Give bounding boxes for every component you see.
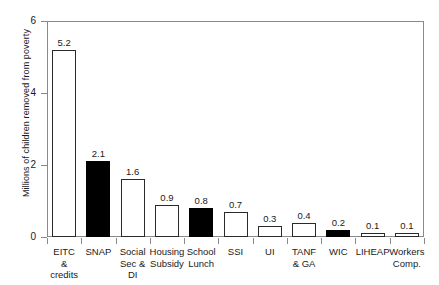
- bar-value-label: 5.2: [48, 38, 80, 48]
- x-axis-tick: [184, 238, 185, 244]
- bar-eitc-credits: [52, 50, 76, 237]
- category-label-line: Comp.: [385, 258, 429, 270]
- y-axis-tick-label: 4: [20, 88, 36, 98]
- bar-social-sec-di: [121, 179, 145, 237]
- category-label-line: credits: [42, 269, 86, 281]
- bar-school-lunch: [189, 208, 213, 237]
- x-axis-category-label: WorkersComp.: [385, 246, 429, 269]
- bar-value-label: 0.4: [288, 211, 320, 221]
- category-label-line: DI: [111, 269, 155, 281]
- x-axis-tick: [424, 238, 425, 244]
- bar-ui: [258, 226, 282, 237]
- x-axis-tick: [355, 238, 356, 244]
- x-axis-tick: [150, 238, 151, 244]
- bar-snap: [86, 161, 110, 237]
- y-axis-tick-label: 6: [20, 16, 36, 26]
- y-axis-tick: [41, 165, 47, 166]
- y-axis-tick-label: 2: [20, 160, 36, 170]
- bar-value-label: 0.3: [254, 214, 286, 224]
- bar-liheap: [361, 233, 385, 237]
- bar-ssi: [224, 212, 248, 237]
- x-axis-tick: [81, 238, 82, 244]
- category-label-line: &: [42, 258, 86, 270]
- y-axis-tick-label: 0: [20, 232, 36, 242]
- bar-value-label: 0.8: [185, 196, 217, 206]
- y-axis-tick: [41, 21, 47, 22]
- bar-value-label: 1.6: [117, 167, 149, 177]
- bar-chart: Millions of children removed from povert…: [0, 0, 439, 285]
- bar-value-label: 0.1: [391, 221, 423, 231]
- bar-value-label: 0.2: [322, 218, 354, 228]
- x-axis-tick: [390, 238, 391, 244]
- category-label-line: Lunch: [179, 258, 223, 270]
- bar-value-label: 0.7: [220, 200, 252, 210]
- x-axis-tick: [218, 238, 219, 244]
- x-axis-tick: [47, 238, 48, 244]
- y-axis-tick: [41, 93, 47, 94]
- bar-value-label: 2.1: [82, 149, 114, 159]
- category-label-line: & GA: [282, 258, 326, 270]
- bar-wic: [326, 230, 350, 237]
- x-axis-tick: [321, 238, 322, 244]
- category-label-line: Workers: [385, 246, 429, 258]
- bar-tanf-ga: [292, 223, 316, 237]
- x-axis-tick: [116, 238, 117, 244]
- bar-value-label: 0.9: [151, 193, 183, 203]
- bar-workers-comp: [395, 233, 419, 237]
- bar-housing-subsidy: [155, 205, 179, 237]
- y-axis-title: Millions of children removed from povert…: [21, 6, 31, 221]
- bar-value-label: 0.1: [357, 221, 389, 231]
- x-axis-tick: [253, 238, 254, 244]
- x-axis-tick: [287, 238, 288, 244]
